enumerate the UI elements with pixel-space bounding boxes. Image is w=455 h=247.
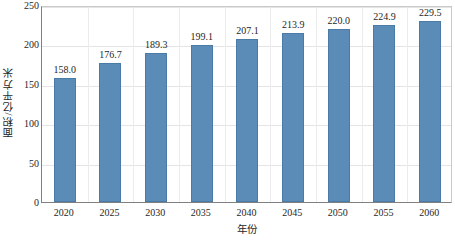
bar-value-label: 220.0: [328, 16, 351, 26]
bar-value-label: 207.1: [236, 26, 259, 36]
y-tick-label: 100: [14, 119, 39, 129]
bar-slot: 158.0: [42, 7, 88, 202]
bar[interactable]: [373, 25, 395, 202]
bar-slot: 213.9: [270, 7, 316, 202]
bar[interactable]: [54, 78, 76, 203]
y-tick-label: 150: [14, 80, 39, 90]
bar[interactable]: [99, 63, 121, 202]
x-tick-label: 2045: [282, 208, 302, 218]
x-tick-label: 2055: [374, 208, 394, 218]
bar-value-label: 189.3: [145, 40, 168, 50]
bar[interactable]: [145, 53, 167, 202]
plot-area: 158.0176.7189.3199.1207.1213.9220.0224.9…: [41, 6, 452, 203]
x-axis-title-text: 年份: [237, 224, 257, 235]
bar[interactable]: [328, 29, 350, 202]
x-axis-title: 年份: [41, 224, 452, 236]
bar-slot: 224.9: [362, 7, 408, 202]
bar-slot: 189.3: [133, 7, 179, 202]
x-tick-label: 2020: [54, 208, 74, 218]
bar-value-label: 213.9: [282, 20, 305, 30]
x-tick-label: 2040: [237, 208, 257, 218]
bar[interactable]: [282, 33, 304, 202]
bar-slot: 229.5: [407, 7, 453, 202]
x-tick-label: 2050: [328, 208, 348, 218]
x-axis-tick-labels: 202020252030203520402045205020552060: [41, 206, 452, 221]
y-axis-tick-labels: 050100150200250: [14, 0, 39, 206]
bar[interactable]: [236, 39, 258, 202]
bar[interactable]: [191, 45, 213, 202]
bar-slot: 176.7: [88, 7, 134, 202]
bar-value-label: 199.1: [191, 32, 214, 42]
x-tick-label: 2060: [419, 208, 439, 218]
y-tick-label: 200: [14, 40, 39, 50]
y-axis-title-text: 面积/亿平方米: [4, 67, 15, 138]
y-tick-label: 250: [14, 1, 39, 11]
x-tick-label: 2035: [191, 208, 211, 218]
bars-layer: 158.0176.7189.3199.1207.1213.9220.0224.9…: [42, 7, 451, 202]
bar-value-label: 158.0: [54, 65, 77, 75]
bar-value-label: 176.7: [99, 50, 122, 60]
bar-value-label: 229.5: [419, 8, 442, 18]
y-tick-label: 50: [14, 159, 39, 169]
bar-chart: 面积/亿平方米 050100150200250 158.0176.7189.31…: [0, 0, 455, 247]
y-tick-label: 0: [14, 198, 39, 208]
x-tick-label: 2025: [100, 208, 120, 218]
x-tick-label: 2030: [145, 208, 165, 218]
bar-slot: 220.0: [316, 7, 362, 202]
bar-slot: 207.1: [225, 7, 271, 202]
bar-value-label: 224.9: [373, 12, 396, 22]
bar-slot: 199.1: [179, 7, 225, 202]
bar[interactable]: [419, 21, 441, 202]
